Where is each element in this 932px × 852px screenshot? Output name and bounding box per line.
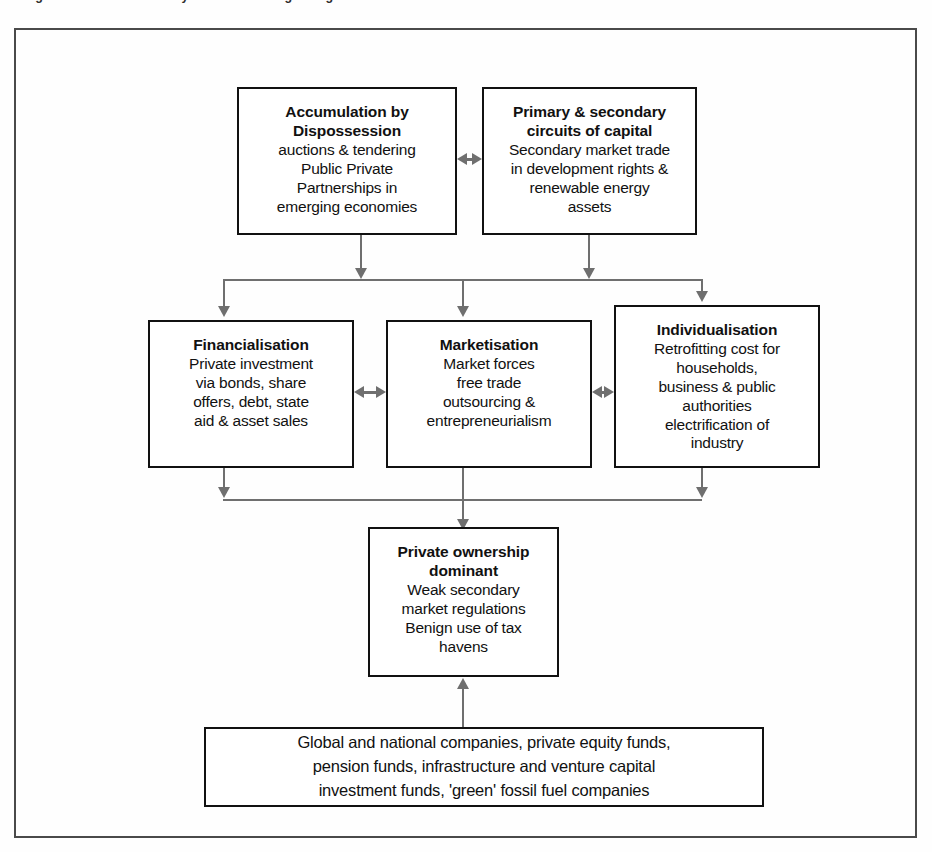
connector-circuits-down bbox=[588, 235, 590, 269]
node-body-line-4: entrepreneurialism bbox=[427, 412, 552, 431]
node-body-line-2: households, bbox=[676, 359, 757, 378]
arrow-right-icon bbox=[472, 153, 482, 165]
node-body-line-4: aid & asset sales bbox=[194, 412, 308, 431]
node-title-line-1: Financialisation bbox=[193, 336, 309, 355]
node-body-line-3: renewable energy bbox=[529, 179, 649, 198]
link-financialisation-marketisation-bidirectional bbox=[354, 385, 386, 399]
connector-shaft bbox=[363, 391, 377, 394]
node-title-line-2: circuits of capital bbox=[527, 122, 653, 141]
figure-canvas: Figure 4. Political economy of climate c… bbox=[0, 0, 932, 852]
arrow-up-icon-private-ownership bbox=[457, 678, 469, 689]
node-marketisation[interactable]: Marketisation Market forces free trade o… bbox=[386, 320, 592, 468]
node-title-line-1: Primary & secondary bbox=[513, 103, 666, 122]
node-title-line-1: Private ownership bbox=[398, 543, 530, 562]
arrow-right-icon bbox=[376, 386, 386, 398]
bus-drop-financialisation bbox=[223, 279, 225, 307]
node-body-line-4: authorities bbox=[682, 397, 751, 416]
node-primary-secondary-circuits-of-capital[interactable]: Primary & secondary circuits of capital … bbox=[482, 87, 697, 235]
connector-marketisation-to-private-ownership bbox=[462, 468, 464, 525]
node-body-line-2: in development rights & bbox=[511, 160, 668, 179]
figure-border-frame: Accumulation by Dispossession auctions &… bbox=[14, 28, 917, 838]
node-body-line-3: business & public bbox=[658, 378, 775, 397]
node-title-line-1: Marketisation bbox=[440, 336, 539, 355]
node-body-line-1: Weak secondary bbox=[407, 581, 519, 600]
node-financialisation[interactable]: Financialisation Private investment via … bbox=[148, 320, 354, 468]
arrow-right-icon bbox=[604, 386, 614, 398]
node-title-line-2: Dispossession bbox=[293, 122, 401, 141]
node-body-line-3: Benign use of tax bbox=[405, 619, 521, 638]
arrow-left-icon bbox=[457, 153, 467, 165]
node-title-line-1: Accumulation by bbox=[285, 103, 408, 122]
node-body-line-2: market regulations bbox=[402, 600, 526, 619]
arrow-down-icon-financialisation bbox=[218, 306, 230, 317]
arrow-down-icon-individualisation-out bbox=[696, 487, 708, 498]
link-marketisation-individualisation-bidirectional bbox=[592, 385, 614, 399]
arrow-left-icon bbox=[592, 386, 602, 398]
node-title-line-1: Individualisation bbox=[657, 321, 778, 340]
node-body-line-4: havens bbox=[439, 638, 488, 657]
connector-accumulation-down bbox=[360, 235, 362, 269]
arrow-down-icon-accumulation bbox=[355, 268, 367, 279]
node-body-line-2: free trade bbox=[457, 374, 521, 393]
node-body-line-1: Private investment bbox=[189, 355, 313, 374]
node-body-line-1: auctions & tendering bbox=[278, 141, 415, 160]
node-body-line-6: industry bbox=[691, 434, 744, 453]
arrow-down-icon-marketisation bbox=[457, 306, 469, 317]
node-body-line-2: pension funds, infrastructure and ventur… bbox=[313, 755, 655, 779]
node-body-line-3: investment funds, 'green' fossil fuel co… bbox=[319, 779, 650, 803]
figure-caption-strip: Figure 4. Political economy of climate c… bbox=[0, 0, 932, 13]
bus-drop-marketisation bbox=[462, 279, 464, 307]
node-body-line-1: Market forces bbox=[443, 355, 534, 374]
node-body-line-3: offers, debt, state bbox=[193, 393, 309, 412]
connector-actors-to-private-ownership bbox=[462, 688, 464, 727]
node-body-line-1: Retrofitting cost for bbox=[654, 340, 780, 359]
figure-caption: Figure 4. Political economy of climate c… bbox=[24, 0, 364, 3]
node-title-line-2: dominant bbox=[429, 562, 498, 581]
node-body-line-4: emerging economies bbox=[277, 198, 417, 217]
node-body-line-2: via bonds, share bbox=[196, 374, 307, 393]
node-accumulation-by-dispossession[interactable]: Accumulation by Dispossession auctions &… bbox=[237, 87, 457, 235]
node-body-line-2: Public Private bbox=[301, 160, 393, 179]
node-body-line-4: assets bbox=[568, 198, 612, 217]
link-accumulation-circuits-bidirectional bbox=[457, 152, 482, 166]
node-actors-and-investors[interactable]: Global and national companies, private e… bbox=[204, 727, 764, 807]
node-body-line-3: Partnerships in bbox=[297, 179, 397, 198]
arrow-down-icon-individualisation bbox=[696, 291, 708, 302]
node-body-line-1: Global and national companies, private e… bbox=[297, 731, 670, 755]
node-private-ownership-dominant[interactable]: Private ownership dominant Weak secondar… bbox=[368, 527, 559, 677]
node-body-line-1: Secondary market trade bbox=[509, 141, 670, 160]
node-body-line-5: electrification of bbox=[665, 416, 769, 435]
arrow-down-icon-circuits bbox=[583, 268, 595, 279]
arrow-left-icon bbox=[354, 386, 364, 398]
node-individualisation[interactable]: Individualisation Retrofitting cost for … bbox=[614, 305, 820, 468]
arrow-down-icon-financialisation-out bbox=[218, 487, 230, 498]
node-body-line-3: outsourcing & bbox=[443, 393, 535, 412]
